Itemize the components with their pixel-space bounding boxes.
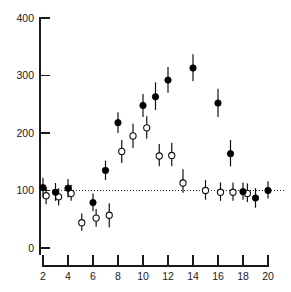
- filled-circle-marker: [90, 199, 96, 205]
- y-tick-label-100: 100: [16, 184, 34, 196]
- y-tick-label-200: 200: [16, 127, 34, 139]
- x-tick-label-12: 12: [162, 270, 174, 282]
- data-point: [93, 209, 99, 227]
- data-point: [144, 116, 150, 138]
- filled-circle-marker: [215, 100, 221, 106]
- y-tick-label-0: 0: [28, 242, 34, 254]
- open-circle-marker: [119, 148, 125, 154]
- data-point: [217, 182, 223, 200]
- filled-circle-marker: [40, 184, 46, 190]
- filled-circle-marker: [227, 151, 233, 157]
- data-point: [202, 180, 208, 200]
- open-circle-marker: [156, 153, 162, 159]
- data-point: [215, 89, 221, 117]
- chart-figure: 0100200300400 2468101214161820: [0, 0, 291, 292]
- open-circle-marker: [43, 193, 49, 199]
- filled-circle-marker: [102, 167, 108, 173]
- x-tick-label-14: 14: [187, 270, 199, 282]
- x-tick-label-4: 4: [65, 270, 71, 282]
- data-point: [240, 182, 246, 199]
- data-point: [252, 188, 258, 208]
- data-point: [265, 181, 271, 198]
- data-point: [180, 169, 186, 193]
- filled-circle-marker: [115, 119, 121, 125]
- data-point: [130, 124, 136, 148]
- y-tick-label-300: 300: [16, 69, 34, 81]
- filled-circle-marker: [190, 65, 196, 71]
- open-circle-marker: [79, 220, 85, 226]
- filled-circle-marker: [152, 94, 158, 100]
- open-circle-marker: [93, 215, 99, 221]
- data-point: [140, 94, 146, 117]
- open-circle-marker: [144, 125, 150, 131]
- data-point: [119, 140, 125, 163]
- data-point: [165, 67, 171, 93]
- x-axis-group: [40, 248, 268, 266]
- open-circle-marker: [217, 189, 223, 195]
- y-axis-group: [40, 18, 50, 248]
- data-point: [169, 143, 175, 167]
- y-tick-labels: 0100200300400: [16, 12, 34, 254]
- filled-circle-marker: [65, 185, 71, 191]
- filled-circle-marker: [165, 77, 171, 83]
- open-circle-marker: [169, 152, 175, 158]
- x-tick-label-2: 2: [40, 270, 46, 282]
- x-tick-label-16: 16: [212, 270, 224, 282]
- data-point: [106, 203, 112, 227]
- x-tick-label-20: 20: [262, 270, 274, 282]
- data-point: [190, 54, 196, 81]
- open-circle-marker: [180, 180, 186, 186]
- open-circle-marker: [230, 189, 236, 195]
- x-tick-label-8: 8: [115, 270, 121, 282]
- scatter-plot-canvas: 0100200300400 2468101214161820: [0, 0, 291, 292]
- series-open-group: [43, 116, 250, 230]
- data-point: [156, 144, 162, 166]
- filled-circle-marker: [265, 187, 271, 193]
- x-tick-labels: 2468101214161820: [40, 270, 274, 282]
- data-point: [90, 193, 96, 211]
- data-point: [152, 82, 158, 110]
- data-point: [115, 112, 121, 133]
- filled-circle-marker: [52, 189, 58, 195]
- filled-circle-marker: [140, 102, 146, 108]
- x-tick-label-18: 18: [237, 270, 249, 282]
- data-point: [227, 140, 233, 166]
- x-axis-line: [43, 255, 268, 266]
- open-circle-marker: [202, 187, 208, 193]
- x-tick-label-6: 6: [90, 270, 96, 282]
- data-point: [79, 214, 85, 231]
- series-filled-group: [40, 54, 271, 211]
- data-point: [230, 182, 236, 200]
- data-point: [102, 161, 108, 181]
- filled-circle-marker: [240, 188, 246, 194]
- open-circle-marker: [130, 133, 136, 139]
- x-tick-label-10: 10: [137, 270, 149, 282]
- open-circle-marker: [106, 212, 112, 218]
- y-tick-label-400: 400: [16, 12, 34, 24]
- filled-circle-marker: [252, 195, 258, 201]
